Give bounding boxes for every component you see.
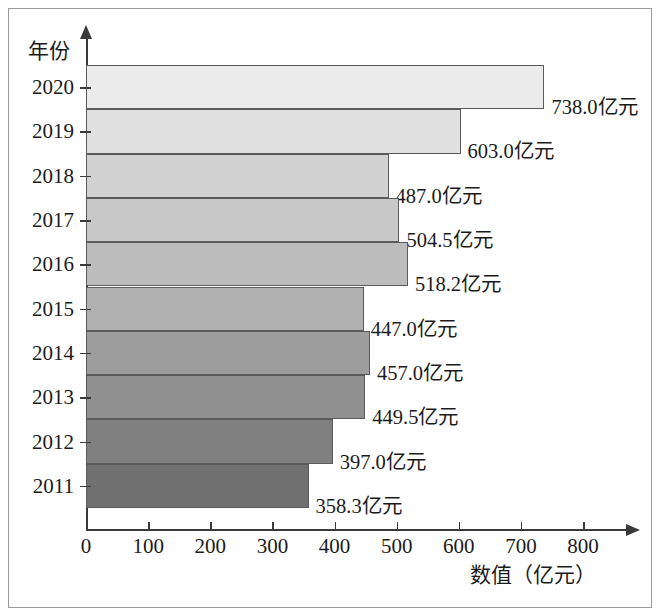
bar-2014 — [86, 331, 370, 375]
x-tick-label-800: 800 — [567, 536, 599, 557]
y-tick-mark-2017 — [80, 220, 91, 222]
x-tick-mark-300 — [272, 522, 274, 530]
bar-value-label-2020: 738.0亿元 — [551, 97, 637, 118]
y-tick-label-2018: 2018 — [8, 166, 74, 187]
y-tick-label-2012: 2012 — [8, 432, 74, 453]
bar-value-label-2019: 603.0亿元 — [468, 141, 554, 162]
y-tick-label-2011: 2011 — [8, 476, 74, 497]
bar-2017 — [86, 198, 399, 242]
y-tick-mark-2015 — [80, 309, 91, 311]
bar-value-label-2018: 487.0亿元 — [396, 186, 482, 207]
bar-2015 — [86, 287, 364, 331]
x-tick-label-700: 700 — [505, 536, 537, 557]
bar-2011 — [86, 464, 309, 508]
x-tick-label-400: 400 — [319, 536, 351, 557]
bar-2012 — [86, 419, 333, 463]
x-tick-mark-600 — [459, 522, 461, 530]
x-axis-line — [86, 529, 634, 531]
bar-value-label-2012: 397.0亿元 — [340, 452, 426, 473]
bar-2020 — [86, 65, 544, 109]
x-tick-mark-700 — [521, 522, 523, 530]
y-tick-mark-2016 — [80, 264, 91, 266]
y-tick-label-2020: 2020 — [8, 77, 74, 98]
y-tick-mark-2014 — [80, 353, 91, 355]
x-tick-label-100: 100 — [132, 536, 164, 557]
y-tick-label-2017: 2017 — [8, 210, 74, 231]
bar-2016 — [86, 242, 408, 286]
x-tick-label-500: 500 — [381, 536, 413, 557]
x-tick-label-300: 300 — [257, 536, 289, 557]
y-tick-mark-2013 — [80, 397, 91, 399]
x-tick-mark-100 — [148, 522, 150, 530]
bar-2013 — [86, 375, 365, 419]
y-axis-arrow-icon — [80, 25, 92, 39]
bar-value-label-2011: 358.3亿元 — [316, 496, 402, 517]
x-tick-mark-400 — [335, 522, 337, 530]
y-tick-label-2019: 2019 — [8, 121, 74, 142]
x-tick-mark-800 — [583, 522, 585, 530]
y-tick-label-2016: 2016 — [8, 254, 74, 275]
x-tick-mark-500 — [397, 522, 399, 530]
y-tick-mark-2020 — [80, 87, 91, 89]
x-axis-arrow-icon — [626, 524, 640, 536]
x-tick-label-200: 200 — [195, 536, 227, 557]
bar-2019 — [86, 109, 461, 153]
bar-value-label-2014: 457.0亿元 — [377, 363, 463, 384]
x-axis-title: 数值（亿元） — [470, 558, 596, 588]
y-tick-mark-2011 — [80, 486, 91, 488]
x-tick-label-0: 0 — [81, 536, 92, 557]
y-tick-mark-2018 — [80, 176, 91, 178]
x-tick-mark-0 — [86, 522, 88, 530]
x-tick-mark-200 — [210, 522, 212, 530]
y-tick-label-2013: 2013 — [8, 387, 74, 408]
bar-value-label-2016: 518.2亿元 — [415, 274, 501, 295]
y-tick-mark-2012 — [80, 442, 91, 444]
y-tick-mark-2019 — [80, 131, 91, 133]
bar-value-label-2013: 449.5亿元 — [372, 407, 458, 428]
y-tick-label-2015: 2015 — [8, 299, 74, 320]
x-tick-label-600: 600 — [443, 536, 475, 557]
y-tick-label-2014: 2014 — [8, 343, 74, 364]
bar-2018 — [86, 154, 389, 198]
y-axis-title: 年份 — [28, 34, 70, 64]
bar-value-label-2015: 447.0亿元 — [371, 319, 457, 340]
bar-value-label-2017: 504.5亿元 — [406, 230, 492, 251]
